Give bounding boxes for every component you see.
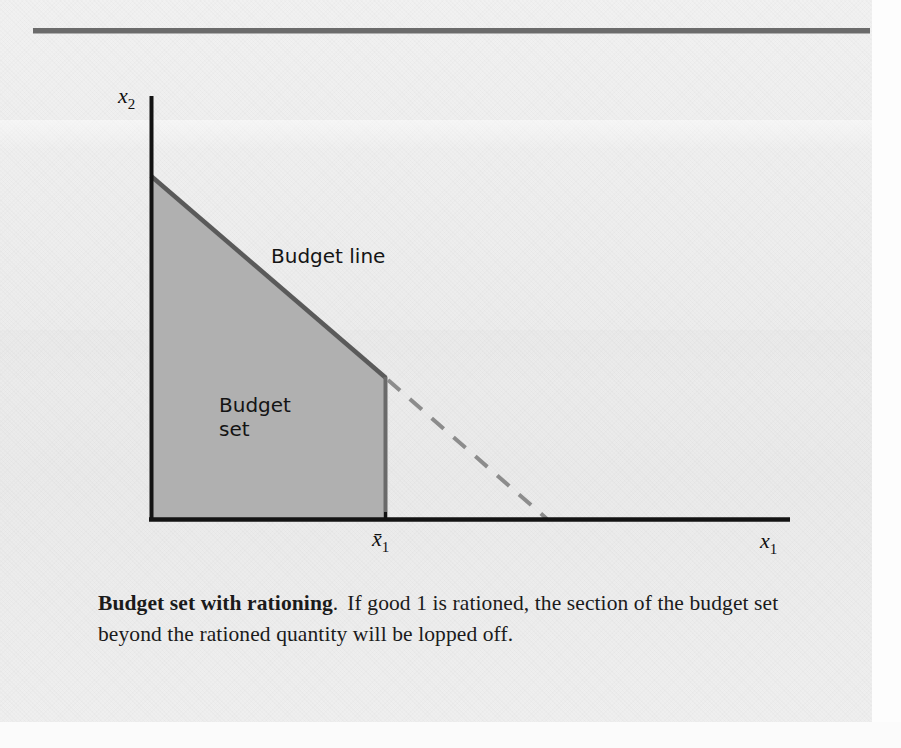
budget-set-annotation-line2: set [219,417,250,441]
budget-set-figure: x2 x1 x̄1 Budget line Budget set [0,0,872,580]
caption-line-1: Budget set with rationing.If good 1 is r… [98,591,628,615]
caption-line-3: off. [483,622,513,646]
x-bar-tick-label: x̄1 [371,526,389,555]
figure-caption: Budget set with rationing.If good 1 is r… [98,588,798,650]
x-axis-label: x1 [759,528,777,557]
page-bottom-margin [0,722,901,748]
caption-period: . [333,591,338,615]
caption-title: Budget set with rationing [98,591,333,615]
budget-line-annotation: Budget line [271,244,385,268]
page-right-margin [872,0,901,748]
y-axis-label: x2 [117,83,135,112]
budget-line-dashed [388,380,547,519]
figure-page: x2 x1 x̄1 Budget line Budget set Budget … [0,0,901,748]
caption-line1-rest: If good 1 is rationed, the section [347,591,628,615]
budget-set-annotation-line1: Budget [219,393,291,417]
